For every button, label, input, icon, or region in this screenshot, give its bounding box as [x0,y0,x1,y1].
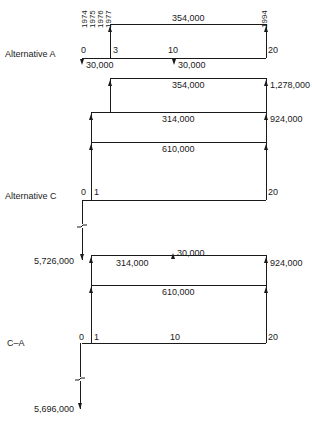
c-minus-a-base-line [91,285,266,286]
alternative-a-label: Alternative A [5,49,56,59]
alt-c-benefit-mid: 314,000 [162,114,195,124]
alt-a-period-3: 3 [113,45,118,55]
c-minus-a-saved-outflow: 30,000 [177,248,205,258]
alt-c-benefit-top: 354,000 [172,80,205,90]
alt-c-arrow-year1 [91,112,92,200]
arrow-down-icon [172,59,176,65]
arrow-down-icon [80,254,84,260]
c-minus-a-total: 924,000 [270,258,303,268]
c-minus-a-arrow-year1 [91,255,92,343]
alt-c-initial-cost: 5,726,000 [34,256,74,266]
alt-a-benefit-line [110,24,266,25]
alt-c-base-line [91,142,266,143]
arrow-up-icon [108,80,112,86]
alt-c-top-line [110,78,266,79]
c-minus-a-benefit-mid: 314,000 [116,258,149,268]
c-minus-a-cost-arrow [80,343,81,409]
alt-a-annual-benefit: 354,000 [172,13,205,23]
c-minus-a-period-1: 1 [94,332,99,342]
alt-c-total-top: 1,278,000 [270,80,310,90]
alt-a-period-20: 20 [268,45,278,55]
alt-c-period-1: 1 [94,187,99,197]
alt-c-period-0: 0 [81,187,86,197]
c-minus-a-benefit-base: 610,000 [162,287,195,297]
axis-break-icon [75,377,85,381]
alt-a-outflow-year0: 30,000 [86,60,114,70]
c-minus-a-period-0: 0 [79,332,84,342]
alt-c-time-axis [82,200,266,201]
alt-c-mid-line [91,112,266,113]
alt-a-outflow-year10: 30,000 [178,60,206,70]
axis-break-icon [77,224,87,228]
c-minus-a-arrow-year20 [266,255,267,343]
c-minus-a-time-axis [82,343,266,344]
c-minus-a-initial-cost: 5,696,000 [34,404,74,414]
alt-c-period-20: 20 [268,187,278,197]
arrow-down-icon [80,59,84,65]
c-minus-a-period-20: 20 [268,332,278,342]
alt-a-period-0: 0 [81,45,86,55]
alt-c-arrow-year20 [266,78,267,200]
arrow-down-icon [78,403,82,409]
alt-c-total-mid: 924,000 [270,114,303,124]
arrow-up-icon [264,26,268,32]
alt-c-cost-arrow [82,200,83,260]
alt-a-period-10: 10 [168,45,178,55]
c-minus-a-label: C–A [7,338,25,348]
arrow-up-icon [108,26,112,32]
alternative-c-label: Alternative C [5,191,57,201]
c-minus-a-mid-line [91,255,266,256]
c-minus-a-period-10: 10 [170,332,180,342]
alt-c-benefit-base: 610,000 [162,144,195,154]
